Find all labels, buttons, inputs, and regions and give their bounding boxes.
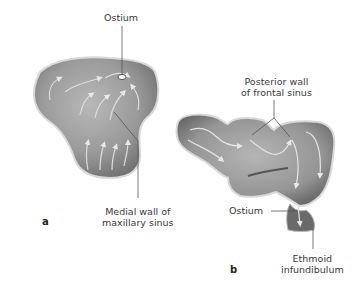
label-medial-wall-line2: maxillary sinus xyxy=(102,217,174,228)
label-ethmoid-infundibulum: Ethmoid infundibulum xyxy=(281,253,344,275)
infundibulum-shape xyxy=(287,204,315,232)
panel-letter-b: b xyxy=(230,264,237,275)
label-posterior-wall-line1: Posterior wall xyxy=(241,76,312,87)
ostium-opening-a xyxy=(118,74,126,79)
label-ethmoid-line2: infundibulum xyxy=(281,264,344,275)
label-ostium-a: Ostium xyxy=(104,12,138,23)
maxillary-sinus-shape xyxy=(34,57,158,178)
panel-letter-a: a xyxy=(42,216,49,227)
label-ostium-b: Ostium xyxy=(229,205,263,216)
label-ethmoid-line1: Ethmoid xyxy=(281,253,344,264)
label-medial-wall-line1: Medial wall of xyxy=(102,206,174,217)
label-medial-wall: Medial wall of maxillary sinus xyxy=(102,206,174,228)
sinus-illustration xyxy=(0,0,356,283)
label-posterior-wall: Posterior wall of frontal sinus xyxy=(241,76,312,98)
label-posterior-wall-line2: of frontal sinus xyxy=(241,87,312,98)
figure-canvas: Ostium Medial wall of maxillary sinus a … xyxy=(0,0,356,283)
